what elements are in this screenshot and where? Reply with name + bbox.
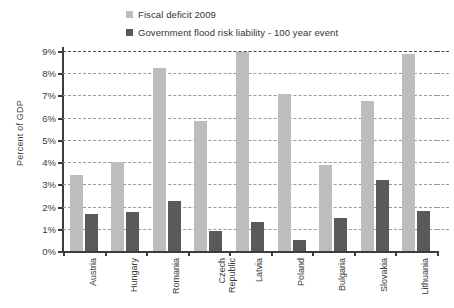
y-axis-tick-label: 0% [42,246,56,257]
plot-area: 9%8%7%6%5%4%3%2%1%0% [63,51,437,251]
y-axis-tick-label: 8% [42,68,56,79]
x-axis-tick-mark [437,251,439,256]
gridline-extension [437,51,449,52]
bar [376,180,389,251]
legend-label-fiscal-deficit: Fiscal deficit 2009 [138,9,216,20]
gridline-extension [437,95,449,96]
gridline-extension [437,118,449,119]
bar-group [312,51,354,251]
x-axis-category-label: Romania [171,258,181,308]
bar [402,54,415,251]
bar-group [271,51,313,251]
bar-group [105,51,147,251]
bar [334,218,347,251]
bar-group [146,51,188,251]
bar [126,212,139,251]
x-axis-category-label: Bulgaria [337,258,347,308]
bar [319,165,332,251]
bar [236,52,249,251]
bars-layer [63,51,437,251]
x-axis-tick-mark [271,251,273,256]
x-axis-category-label: CzechRepublic [217,258,237,308]
chart-legend: Fiscal deficit 2009 Government flood ris… [126,6,426,42]
x-axis-category-label: Lithuania [420,258,430,308]
legend-item-fiscal-deficit: Fiscal deficit 2009 [126,6,426,22]
bar-group [229,51,271,251]
bar-chart: Fiscal deficit 2009 Government flood ris… [0,0,454,308]
bar [85,214,98,251]
bar-group [63,51,105,251]
bar [361,101,374,251]
gridline-extension [437,73,449,74]
bar [278,94,291,251]
legend-label-flood-risk-liability: Government flood risk liability - 100 ye… [138,27,338,38]
y-axis-title: Percent of GDP [15,73,25,193]
y-axis-tick-label: 5% [42,134,56,145]
bar [209,231,222,251]
x-axis-tick-mark [395,251,397,256]
x-axis-category-label: Latvia [254,258,264,308]
x-axis-tick-mark [312,251,314,256]
legend-swatch-icon-flood-risk-liability [126,29,133,36]
legend-item-flood-risk-liability: Government flood risk liability - 100 ye… [126,24,426,40]
x-axis-tick-mark [229,251,231,256]
x-axis-tick-mark [105,251,107,256]
bar [168,201,181,251]
x-axis-category-label: Austria [88,258,98,308]
x-axis-line [62,251,438,253]
gridline-extension [437,184,449,185]
bar [417,211,430,251]
legend-swatch-icon-fiscal-deficit [126,11,133,18]
bar [153,68,166,251]
x-axis-category-label: Poland [296,258,306,308]
gridline-extension [437,229,449,230]
bar [251,222,264,251]
bar-group [395,51,437,251]
y-axis-tick-label: 6% [42,112,56,123]
x-axis-labels: AustriaHungaryRomaniaCzechRepublicLatvia… [63,258,437,308]
y-axis-tick-label: 2% [42,201,56,212]
y-axis-tick-label: 7% [42,90,56,101]
bar [111,162,124,251]
x-axis-tick-mark [354,251,356,256]
y-axis-tick-label: 3% [42,179,56,190]
x-axis-tick-mark [146,251,148,256]
x-axis-category-label: Slovakia [379,258,389,308]
gridline-extension [437,207,449,208]
bar-group [354,51,396,251]
x-axis-tick-mark [63,251,65,256]
y-axis-tick-label: 1% [42,223,56,234]
bar [70,175,83,251]
bar [194,121,207,251]
gridline-extension [437,162,449,163]
bar [293,240,306,251]
y-axis-tick-label: 4% [42,157,56,168]
y-axis-tick-label: 9% [42,46,56,57]
x-axis-category-label: Hungary [129,258,139,308]
bar-group [188,51,230,251]
gridline-extension [437,140,449,141]
x-axis-tick-mark [188,251,190,256]
